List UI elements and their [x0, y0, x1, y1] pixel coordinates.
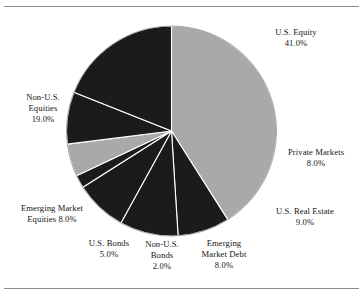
slice-label-non-us-bonds: Non-U.S. Bonds 2.0%: [135, 239, 189, 272]
slice-label-us-equity: U.S. Equity 41.0%: [248, 27, 344, 49]
slice-label-non-us-equities: Non-U.S. Equities 19.0%: [6, 92, 80, 125]
slice-label-private-markets: Private Markets 8.0%: [270, 147, 362, 169]
slice-label-us-real-estate: U.S. Real Estate 9.0%: [255, 206, 355, 228]
figure-root: U.S. Equity 41.0% Private Markets 8.0% U…: [0, 0, 363, 296]
slice-label-us-bonds: U.S. Bonds 5.0%: [76, 238, 142, 260]
bottom-divider-rule: [4, 288, 359, 289]
slice-label-emerging-market-debt: Emerging Market Debt 8.0%: [190, 238, 258, 271]
slice-label-emerging-market-equities: Emerging Market Equities 8.0%: [2, 203, 102, 225]
